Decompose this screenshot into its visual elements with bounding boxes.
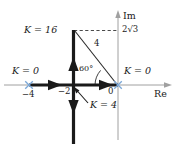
root-locus-figure: K = 0 K = 0 K = 16 K = 4 −4 −2 0 2√3 Im … bbox=[0, 0, 177, 153]
label-imag-value: 2√3 bbox=[122, 25, 138, 34]
real-axis-arrowhead bbox=[164, 82, 172, 88]
root-locus-plot bbox=[0, 0, 177, 153]
label-k-sixteen: K = 16 bbox=[24, 25, 57, 35]
axis-label-real: Re bbox=[154, 89, 167, 99]
label-k-zero-right: K = 0 bbox=[124, 66, 151, 76]
tick-label-zero: 0 bbox=[108, 87, 113, 96]
imag-axis-arrowhead bbox=[115, 10, 120, 18]
tick-label-minus-four: −4 bbox=[22, 90, 35, 99]
axis-label-imag: Im bbox=[123, 11, 136, 21]
label-angle-sixty: 60° bbox=[79, 65, 93, 73]
label-k-four: K = 4 bbox=[90, 100, 117, 110]
label-k-zero-left: K = 0 bbox=[12, 66, 39, 76]
label-radius-four: 4 bbox=[94, 39, 99, 48]
vertical-locus-arrow-up bbox=[68, 57, 78, 71]
vertical-locus-arrow-down bbox=[68, 100, 78, 114]
tick-label-minus-two: −2 bbox=[58, 87, 71, 96]
